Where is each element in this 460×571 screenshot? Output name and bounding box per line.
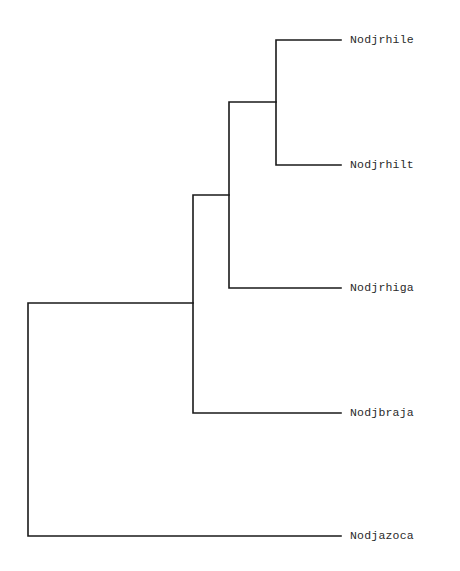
branch-clade-rhile-rhilt <box>276 40 341 165</box>
branch-clade-braja <box>193 195 341 413</box>
leaf-label-nodjazoca: Nodjazoca <box>350 529 414 543</box>
branch-clade-rhiga <box>229 102 341 288</box>
branch-root <box>28 303 341 536</box>
leaf-label-nodjrhiga: Nodjrhiga <box>350 281 414 295</box>
leaf-label-nodjrhilt: Nodjrhilt <box>350 158 414 172</box>
leaf-label-nodjrhile: Nodjrhile <box>350 33 414 47</box>
leaf-label-nodjbraja: Nodjbraja <box>350 406 414 420</box>
